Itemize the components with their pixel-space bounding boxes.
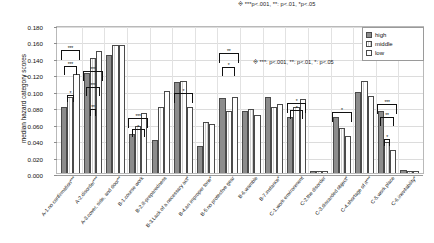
y-axis-tick-label: 0.100 bbox=[0, 89, 43, 96]
y-axis-tick-label: 0.160 bbox=[0, 40, 43, 47]
significance-bracket: * bbox=[222, 67, 235, 76]
x-axis-tick-label: B-3.Lack of a necessary act* bbox=[144, 175, 190, 228]
bar-low bbox=[232, 97, 238, 173]
y-axis-tick-label: 0.040 bbox=[0, 139, 43, 146]
x-axis-tick-label: B-7.instance* bbox=[257, 175, 281, 202]
bar-group: ** bbox=[285, 27, 308, 173]
legend-label: high bbox=[375, 32, 386, 38]
bar-low bbox=[73, 74, 79, 173]
significance-stars: ** bbox=[220, 48, 238, 54]
bar-low bbox=[277, 104, 283, 173]
bar-group: *** bbox=[217, 27, 240, 173]
y-axis-tick-label: 0.000 bbox=[0, 172, 43, 179]
significance-bracket: *** bbox=[61, 50, 81, 60]
bar-group bbox=[263, 27, 286, 173]
x-axis-tick-label: A-1.no confirmation*** bbox=[40, 175, 77, 217]
y-axis-tick-label: 0.180 bbox=[0, 24, 43, 31]
significance-note-inner: ※ ***: p<.001, **: p<.01, *: p<.05 bbox=[253, 59, 334, 65]
legend-label: middle bbox=[375, 41, 393, 47]
y-axis-tick-label: 0.120 bbox=[0, 73, 43, 80]
bar-low bbox=[300, 99, 306, 173]
bar-low bbox=[187, 107, 193, 173]
bar-low bbox=[322, 171, 328, 173]
legend: highmiddlelow bbox=[362, 27, 424, 61]
y-axis-title: median hazard category scores bbox=[20, 29, 27, 169]
bar-low bbox=[209, 124, 215, 173]
legend-item-middle[interactable]: middle bbox=[366, 40, 420, 49]
significance-stars: * bbox=[223, 62, 234, 68]
bar-low bbox=[141, 113, 147, 173]
significance-stars: * bbox=[68, 90, 73, 96]
legend-swatch-high bbox=[366, 32, 372, 38]
bar-low bbox=[96, 51, 102, 173]
significance-stars: *** bbox=[62, 45, 80, 51]
bar-group bbox=[150, 27, 173, 173]
bar-group bbox=[308, 27, 331, 173]
bar-group bbox=[104, 27, 127, 173]
legend-swatch-low bbox=[366, 50, 372, 56]
bar-group bbox=[240, 27, 263, 173]
y-axis-tick-label: 0.080 bbox=[0, 106, 43, 113]
bar-low bbox=[345, 136, 351, 173]
bar-group: ******* bbox=[59, 27, 82, 173]
significance-bracket: ** bbox=[219, 53, 239, 63]
x-axis-tick-label: A-3.cover, side, and door** bbox=[79, 175, 122, 225]
bar-group: * bbox=[331, 27, 354, 173]
legend-swatch-middle bbox=[366, 41, 372, 47]
y-axis-tick-label: 0.060 bbox=[0, 122, 43, 129]
bar-low bbox=[119, 45, 125, 173]
y-axis-tick-label: 0.020 bbox=[0, 155, 43, 162]
significance-stars: * bbox=[333, 107, 351, 113]
legend-label: low bbox=[375, 50, 384, 56]
bar-group: ******** bbox=[82, 27, 105, 173]
bar-group: **** bbox=[127, 27, 150, 173]
bar-low bbox=[254, 115, 260, 173]
bar-low bbox=[368, 96, 374, 173]
legend-item-low[interactable]: low bbox=[366, 49, 420, 58]
bar-group bbox=[195, 27, 218, 173]
legend-item-high[interactable]: high bbox=[366, 31, 420, 40]
x-axis-labels: A-1.no confirmation***A-2.disorder***A-3… bbox=[56, 175, 424, 243]
y-axis-tick-label: 0.140 bbox=[0, 56, 43, 63]
significance-note-top: ※ ***p<.001, **: p<.01, *p<.05 bbox=[238, 1, 316, 7]
significance-stars: *** bbox=[378, 99, 396, 105]
bar-low bbox=[390, 150, 396, 173]
x-axis-tick-label: B-6.wamble bbox=[237, 175, 259, 199]
bar-low bbox=[413, 171, 419, 173]
bar-group: * bbox=[172, 27, 195, 173]
bar-low bbox=[164, 91, 170, 173]
significance-stars: * bbox=[385, 134, 390, 140]
significance-stars: *** bbox=[65, 61, 76, 67]
